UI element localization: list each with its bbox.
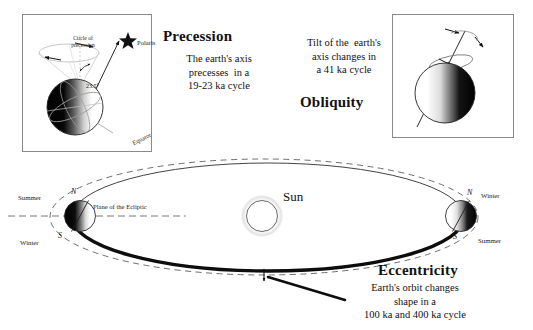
- eccentricity-caption: Earth's orbit changes shape in a 100 ka …: [340, 281, 490, 322]
- obliquity-caption: Tilt of the earth's axis changes in a 41…: [288, 36, 400, 77]
- diagram-canvas: Circle of precession Polaris 23.5° Equat…: [0, 0, 533, 330]
- label-season-left-top: Summer: [18, 194, 41, 201]
- label-season-right-bottom: Summer: [478, 237, 501, 244]
- label-sun: Sun: [283, 189, 303, 205]
- sun-body: [247, 201, 278, 232]
- label-south-pole-right: S: [453, 232, 457, 241]
- label-plane-of-ecliptic: Plane of the Ecliptic: [93, 203, 147, 210]
- label-season-right-top: Winter: [481, 192, 500, 199]
- precession-inset-panel: Circle of precession Polaris 23.5° Equat…: [22, 14, 152, 152]
- earth-left: [65, 201, 96, 232]
- polaris-star-icon: [119, 32, 137, 49]
- label-south-pole-left: S: [58, 231, 62, 240]
- obliquity-heading: Obliquity: [300, 94, 364, 111]
- obliquity-inset-panel: Axis of rotation: [392, 14, 514, 138]
- label-polaris: Polaris: [137, 39, 155, 46]
- earth-right: [446, 201, 477, 232]
- label-north-pole-left: N: [71, 187, 76, 196]
- eccentricity-heading: Eccentricity: [378, 262, 458, 279]
- eccentricity-leader-line: [268, 277, 345, 300]
- label-season-left-bottom: Winter: [20, 239, 39, 246]
- precession-heading: Precession: [163, 28, 232, 45]
- label-circle-of-precession: Circle of precession: [59, 35, 107, 49]
- obliquity-illustration: [393, 15, 515, 139]
- precession-caption: The earth's axis precesses in a 19-23 ka…: [158, 52, 280, 93]
- label-north-pole-right: N: [467, 188, 472, 197]
- label-tilt-angle: 23.5°: [86, 83, 99, 89]
